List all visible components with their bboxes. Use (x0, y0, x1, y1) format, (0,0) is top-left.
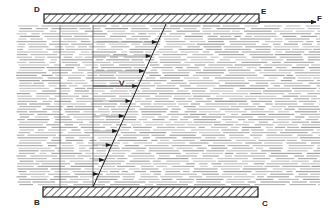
label-e: E (261, 7, 267, 16)
bottom-fixed-plate (43, 187, 258, 197)
label-d: D (34, 5, 40, 14)
fluid-region (16, 26, 320, 185)
label-c: C (262, 199, 268, 208)
couette-flow-diagram: D E F B C V (0, 0, 335, 212)
velocity-profile (93, 24, 166, 187)
label-f: F (317, 14, 322, 23)
label-b: B (34, 198, 40, 207)
label-v: V (119, 79, 125, 88)
top-moving-plate (44, 14, 259, 23)
